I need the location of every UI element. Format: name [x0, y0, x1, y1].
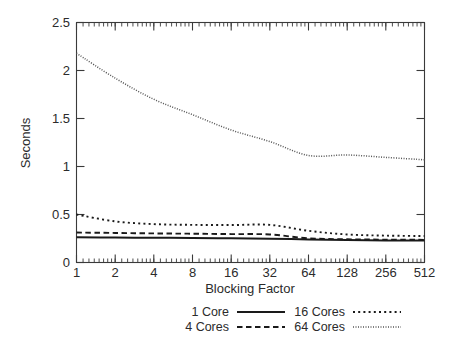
y-tick-label-0: 0	[63, 255, 70, 270]
x-tick-label-4: 4	[150, 265, 157, 280]
legend-label-16-cores: 16 Cores	[294, 305, 345, 319]
x-tick-label-64: 64	[301, 265, 315, 280]
x-tick-label-2: 2	[112, 265, 119, 280]
y-tick-label-1_5: 1.5	[52, 111, 70, 126]
chart-figure: 0 0.5 1 1.5 2 2.5 Seconds	[0, 0, 451, 343]
y-axis-title: Seconds	[18, 117, 33, 168]
y-tick-label-1: 1	[63, 159, 70, 174]
y-tick-label-2: 2	[63, 63, 70, 78]
legend-label-64-cores: 64 Cores	[294, 320, 345, 334]
x-tick-label-16: 16	[224, 265, 238, 280]
seconds-vs-blocking-factor-chart: 0 0.5 1 1.5 2 2.5 Seconds	[0, 0, 451, 343]
x-axis-title: Blocking Factor	[205, 281, 295, 296]
legend-label-1-core: 1 Core	[191, 305, 229, 319]
x-tick-label-1: 1	[73, 265, 80, 280]
legend-label-4-cores: 4 Cores	[185, 320, 229, 334]
y-tick-label-2_5: 2.5	[52, 15, 70, 30]
x-tick-label-512: 512	[414, 265, 436, 280]
x-tick-label-32: 32	[263, 265, 277, 280]
x-tick-label-128: 128	[336, 265, 358, 280]
y-tick-label-0_5: 0.5	[52, 207, 70, 222]
x-tick-label-256: 256	[375, 265, 397, 280]
x-tick-label-8: 8	[189, 265, 196, 280]
